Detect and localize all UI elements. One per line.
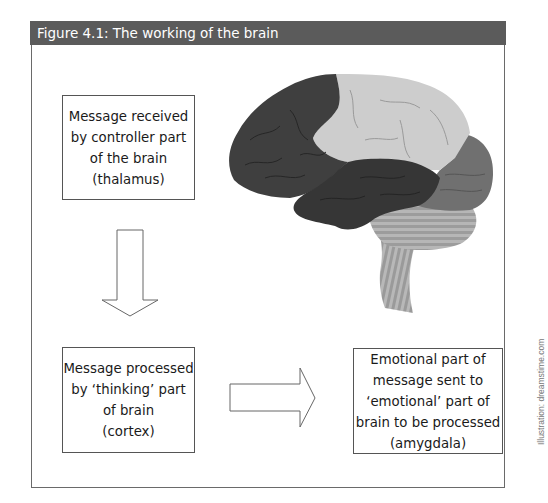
box-line: ‘emotional’ part of (356, 391, 501, 412)
box-line: (amygdala) (356, 433, 501, 454)
box-line: Emotional part of (356, 349, 501, 370)
box-line: of the brain (69, 148, 189, 169)
right-arrow-icon (230, 368, 315, 427)
box-line: by controller part (69, 127, 189, 148)
box-line: (thalamus) (69, 169, 189, 190)
down-arrow-icon (102, 230, 158, 316)
illustration-credit: Illustration: dreamstime.com (536, 339, 546, 445)
amygdala-box: Emotional part of message sent to ‘emoti… (353, 348, 503, 454)
cortex-box: Message processed by ‘thinking’ part of … (62, 347, 195, 453)
box-line: by ‘thinking’ part (63, 379, 193, 400)
box-line: of brain (63, 400, 193, 421)
box-line: (cortex) (63, 421, 193, 442)
box-line: Message processed (63, 358, 193, 379)
box-line: message sent to (356, 370, 501, 391)
thalamus-box: Message received by controller part of t… (62, 95, 195, 200)
box-line: Message received (69, 106, 189, 127)
brain-illustration (229, 74, 493, 313)
box-line: brain to be processed (356, 412, 501, 433)
